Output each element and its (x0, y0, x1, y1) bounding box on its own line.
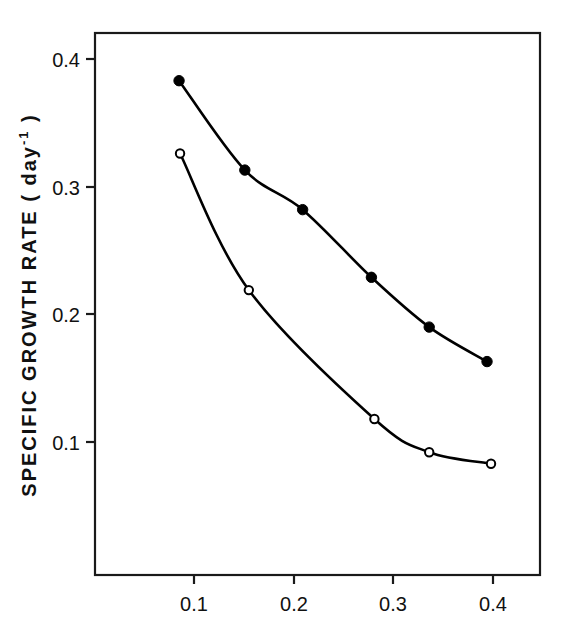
data-point-filled-circles-5 (482, 356, 492, 366)
scatter-line-chart: 0.4 0.3 0.2 0.1 0.1 0.2 0.3 0.4 SPECIFIC… (0, 0, 574, 641)
data-point-filled-circles-0 (174, 76, 184, 86)
data-point-open-circles-3 (425, 448, 433, 456)
y-axis-title-main: SPECIFIC GROWTH RATE ( day (18, 145, 40, 497)
data-point-open-circles-2 (370, 415, 378, 423)
y-tick-label-0.1: 0.1 (52, 432, 80, 454)
y-axis-ticks (86, 59, 95, 442)
data-point-filled-circles-1 (240, 165, 250, 175)
y-axis-title: SPECIFIC GROWTH RATE ( day-1 ) (16, 113, 40, 496)
y-axis-title-tail: ) (18, 113, 40, 129)
y-axis-title-superscript: -1 (16, 130, 31, 146)
x-tick-label-0.1: 0.1 (180, 593, 208, 615)
series-layer (174, 76, 495, 468)
series-line-filled-circles (179, 81, 487, 362)
x-tick-label-0.4: 0.4 (479, 593, 507, 615)
svg-text:SPECIFIC GROWTH RATE ( day-1 ): SPECIFIC GROWTH RATE ( day-1 ) (16, 113, 40, 496)
y-tick-label-0.3: 0.3 (52, 177, 80, 199)
data-point-filled-circles-3 (366, 272, 376, 282)
plot-frame (95, 33, 540, 575)
series-line-open-circles (180, 153, 491, 463)
y-tick-label-0.2: 0.2 (52, 304, 80, 326)
x-tick-label-0.2: 0.2 (280, 593, 308, 615)
data-point-open-circles-4 (487, 460, 495, 468)
x-axis-ticks (194, 575, 493, 584)
data-point-filled-circles-2 (297, 204, 307, 214)
data-point-open-circles-0 (176, 149, 184, 157)
y-tick-label-0.4: 0.4 (52, 49, 80, 71)
x-tick-label-0.3: 0.3 (379, 593, 407, 615)
chart-figure: 0.4 0.3 0.2 0.1 0.1 0.2 0.3 0.4 SPECIFIC… (0, 0, 574, 641)
data-point-open-circles-1 (245, 286, 253, 294)
data-point-filled-circles-4 (424, 322, 434, 332)
